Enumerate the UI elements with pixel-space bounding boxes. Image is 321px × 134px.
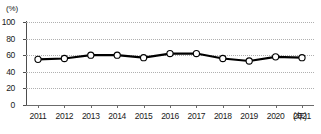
data-point <box>273 54 279 60</box>
y-axis-tick-label: 100 <box>0 18 15 27</box>
y-axis-tick-label: 0 <box>0 101 15 110</box>
data-point <box>246 58 252 64</box>
y-axis-unit-label: (%) <box>6 4 18 14</box>
data-point <box>61 55 67 61</box>
x-axis-tick <box>38 105 39 108</box>
data-series <box>26 22 314 105</box>
y-axis-tick-label: 40 <box>0 68 15 77</box>
y-axis-tick-label: 80 <box>0 35 15 44</box>
data-point <box>141 55 147 61</box>
x-axis-tick <box>302 105 303 108</box>
data-point <box>88 52 94 58</box>
x-axis-tick <box>144 105 145 108</box>
x-axis-tick <box>117 105 118 108</box>
line-chart: (%) 020406080100 20112012201320142015201… <box>0 0 321 134</box>
x-axis-tick <box>223 105 224 108</box>
y-axis-tick-label: 20 <box>0 84 15 93</box>
data-point <box>35 56 41 62</box>
x-axis-tick <box>249 105 250 108</box>
data-point <box>114 52 120 58</box>
x-axis-tick <box>196 105 197 108</box>
plot-area: 020406080100 201120122013201420152016201… <box>26 22 314 105</box>
x-axis-tick <box>276 105 277 108</box>
y-axis-tick <box>23 105 26 106</box>
x-axis-tick <box>91 105 92 108</box>
x-axis-tick <box>170 105 171 108</box>
data-point <box>193 50 199 56</box>
data-point <box>299 55 305 61</box>
y-axis-tick-label: 60 <box>0 51 15 60</box>
data-point <box>220 55 226 61</box>
data-point <box>167 50 173 56</box>
x-axis-tick <box>64 105 65 108</box>
x-axis-unit-label: (年) <box>293 111 307 121</box>
